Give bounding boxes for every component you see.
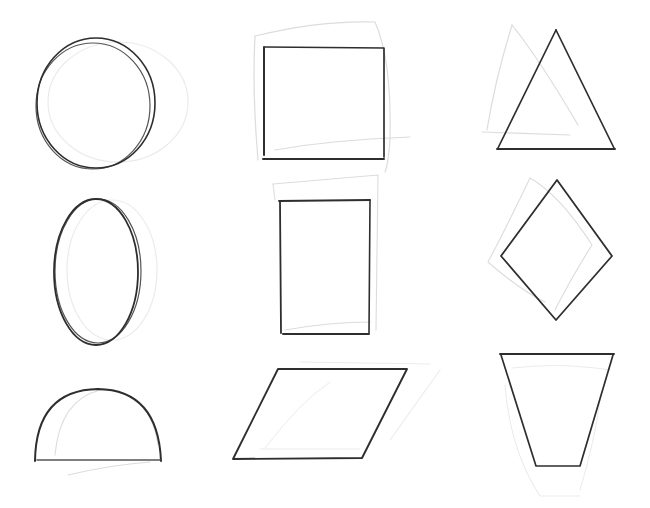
triangle-sketch <box>482 25 615 149</box>
semicircle-sketch <box>35 389 161 475</box>
circle-sketch <box>36 38 188 169</box>
trapezoid-sketch <box>500 354 614 496</box>
rectangle-sketch <box>273 175 378 334</box>
shape-sketch-canvas <box>0 0 650 508</box>
oval-sketch <box>54 199 157 345</box>
square-sketch <box>254 22 410 172</box>
diamond-sketch <box>488 178 612 320</box>
parallelogram-sketch <box>233 362 440 459</box>
